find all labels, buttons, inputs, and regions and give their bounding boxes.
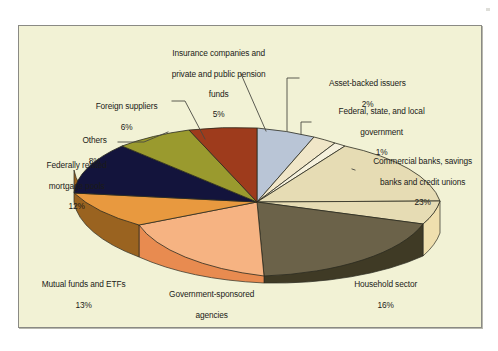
callout-mutual-funds-line1: Mutual funds and ETFs [42, 279, 126, 289]
leader-line-government [301, 122, 311, 134]
screenshot-root: Insurance companies and private and publ… [0, 0, 498, 351]
callout-foreign-suppliers-line1: Foreign suppliers [96, 101, 158, 111]
callout-commercial-banks-line2: banks and credit unions [380, 177, 465, 187]
chart-panel: Insurance companies and private and publ… [18, 25, 482, 328]
leader-line-asset-backed [287, 78, 299, 131]
callout-mortgage-pools-value: 12% [68, 201, 84, 211]
callout-foreign-suppliers-value: 6% [121, 122, 133, 132]
callout-household-value: 16% [377, 300, 393, 310]
callout-mutual-funds: Mutual funds and ETFs 13% [18, 269, 136, 320]
callout-commercial-banks: Commercial banks, savings banks and cred… [349, 146, 482, 217]
callout-gse-line1: Government-sponsored [169, 289, 254, 299]
callout-government-line2: government [360, 127, 403, 137]
callout-insurance-line1: Insurance companies and [172, 48, 265, 58]
callout-gse: Government-sponsored agencies 14% [137, 279, 273, 328]
scan-artifact [486, 8, 490, 11]
callout-gse-line2: agencies [195, 310, 227, 320]
callout-government-line1: Federal, state, and local [339, 106, 425, 116]
callout-commercial-banks-line1: Commercial banks, savings [373, 156, 472, 166]
callout-others-value: 8% [89, 156, 101, 166]
callout-insurance-line3: funds [209, 89, 229, 99]
callout-household-line1: Household sector [354, 279, 417, 289]
callout-mutual-funds-value: 13% [75, 300, 91, 310]
callout-foreign-suppliers: Foreign suppliers 6% [69, 91, 171, 142]
callout-commercial-banks-value: 23% [414, 197, 430, 207]
callout-insurance-line2: private and public pension [172, 69, 266, 79]
callout-asset-backed-line1: Asset-backed issuers [329, 78, 406, 88]
callout-mortgage-pools-line2: mortgage pools [49, 181, 105, 191]
callout-insurance-value: 5% [213, 109, 225, 119]
callout-household: Household sector 16% [319, 269, 439, 320]
